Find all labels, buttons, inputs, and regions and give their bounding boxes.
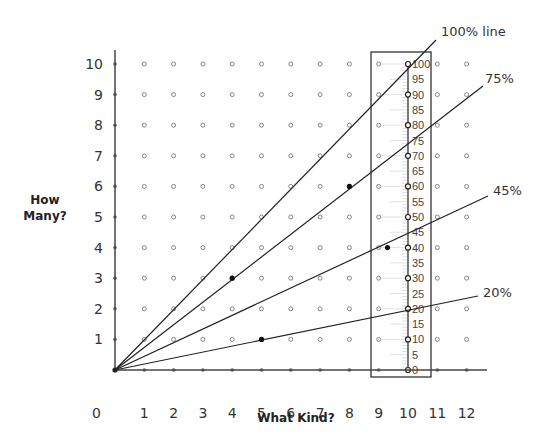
grid-dot [142, 62, 146, 66]
grid-dot [142, 123, 146, 127]
grid-dot [435, 123, 439, 127]
x-tick-label: 8 [345, 405, 354, 421]
grid-dot [465, 62, 469, 66]
line-label-45: 45% [493, 183, 522, 198]
ruler-dot [406, 184, 411, 189]
x-tick-label: 11 [428, 405, 446, 421]
grid-dot [289, 337, 293, 341]
grid-dot [142, 215, 146, 219]
grid-dot [347, 337, 351, 341]
grid-dot [435, 62, 439, 66]
ruler-dot [406, 123, 411, 128]
grid-dot [435, 276, 439, 280]
y-tick-label: 6 [94, 178, 103, 194]
ruler-label: 65 [412, 165, 424, 177]
grid-dot [142, 307, 146, 311]
ruler-label: 95 [412, 73, 424, 85]
grid-dot [230, 154, 234, 158]
grid-dot [465, 123, 469, 127]
ruler-label: 40 [412, 242, 424, 254]
grid-dot [230, 184, 234, 188]
ruler-label: 30 [412, 272, 424, 284]
grid-dot [172, 123, 176, 127]
grid-dot [201, 123, 205, 127]
x-tick-label: 3 [198, 405, 207, 421]
y-tick-label: 5 [94, 209, 103, 225]
grid-dot [318, 62, 322, 66]
grid-dot [347, 276, 351, 280]
grid-dot [230, 123, 234, 127]
grid-dot [347, 307, 351, 311]
grid-dot [201, 246, 205, 250]
grid-dot [260, 276, 264, 280]
grid-dot [289, 246, 293, 250]
y-axis-title-line2: Many? [23, 209, 66, 223]
grid-dot [465, 154, 469, 158]
ruler-label: 10 [412, 333, 424, 345]
line-label-75: 75% [485, 71, 514, 86]
grid-dot [318, 93, 322, 97]
ruler-dot [406, 92, 411, 97]
grid-dot [289, 307, 293, 311]
grid-dot [201, 307, 205, 311]
percent-line [115, 86, 483, 370]
grid-dot [289, 123, 293, 127]
grid-dot [347, 123, 351, 127]
percent-lines [115, 40, 488, 370]
ruler-label: 60 [412, 180, 424, 192]
grid-dot [435, 337, 439, 341]
x-tick-label: 4 [228, 405, 237, 421]
grid-dot [142, 184, 146, 188]
ruler-dot [406, 245, 411, 250]
grid-dot [318, 123, 322, 127]
grid-dot [172, 154, 176, 158]
grid-dot [465, 246, 469, 250]
grid-dot [201, 215, 205, 219]
grid-dot [230, 93, 234, 97]
grid-dot [172, 93, 176, 97]
grid-dot [260, 62, 264, 66]
grid-dot [260, 93, 264, 97]
grid-dot [289, 276, 293, 280]
grid-dot [347, 154, 351, 158]
grid-dot [201, 154, 205, 158]
grid-dot [260, 246, 264, 250]
y-tick-label: 9 [94, 87, 103, 103]
grid-dot [172, 184, 176, 188]
grid-dot [318, 215, 322, 219]
percent-line [115, 196, 488, 370]
ruler-label: 15 [412, 318, 424, 330]
grid-dot [230, 62, 234, 66]
grid-dot [465, 276, 469, 280]
y-tick-label: 10 [85, 56, 103, 72]
ruler-label: 90 [412, 89, 424, 101]
grid-dot [465, 307, 469, 311]
y-tick-label: 8 [94, 117, 103, 133]
highlighted-point [385, 245, 390, 250]
grid-dot [289, 215, 293, 219]
grid-dot [230, 337, 234, 341]
ruler-label: 50 [412, 211, 424, 223]
line-label-100: 100% line [441, 24, 506, 39]
y-tick-label: 4 [94, 240, 103, 256]
grid-dot [435, 154, 439, 158]
x-tick-label: 10 [399, 405, 417, 421]
ruler-label: 70 [412, 150, 424, 162]
ruler-label: 55 [412, 196, 424, 208]
grid-dot [260, 184, 264, 188]
grid-dot [318, 276, 322, 280]
grid-dot [435, 246, 439, 250]
x-tick-label: 1 [140, 405, 149, 421]
grid-dot [347, 62, 351, 66]
grid-dot [318, 246, 322, 250]
x-tick-label: 2 [169, 405, 178, 421]
grid-dot [465, 215, 469, 219]
ruler-label: 25 [412, 288, 424, 300]
ruler-label: 100 [412, 58, 430, 70]
grid-dot [318, 307, 322, 311]
ruler-dot [406, 215, 411, 220]
grid-dot [347, 215, 351, 219]
ruler-dot [406, 276, 411, 281]
grid-dot [465, 337, 469, 341]
grid-dot [465, 93, 469, 97]
